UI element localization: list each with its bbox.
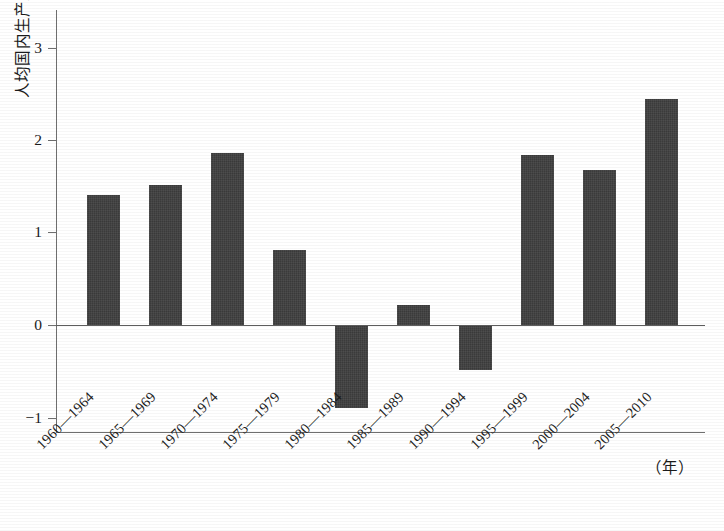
bar-1995-1999[interactable] (521, 155, 554, 325)
zero-baseline (56, 325, 705, 326)
bar-1970-1974[interactable] (211, 153, 244, 325)
y-tick-mark-1 (48, 232, 57, 233)
x-axis-unit-label: （年） (646, 455, 694, 477)
bar-1960-1964[interactable] (87, 195, 120, 325)
bar-1975-1979[interactable] (273, 250, 306, 325)
y-tick-mark-2 (48, 140, 57, 141)
bar-1985-1989[interactable] (397, 305, 430, 325)
bar-2005-2010[interactable] (645, 99, 678, 325)
bar-2000-2004[interactable] (583, 170, 616, 325)
y-tick-label-2: 2 (12, 131, 42, 149)
y-tick-mark-3 (48, 48, 57, 49)
y-tick-label-neg1: −1 (12, 409, 42, 427)
y-tick-label-3: 3 (12, 39, 42, 57)
y-tick-label-0: 0 (12, 316, 42, 334)
y-tick-label-1: 1 (12, 223, 42, 241)
chart-figure: 人均国内生产总值真实增长率中位数（%） 3 2 1 0 −1 1960—1964… (0, 0, 724, 531)
bar-1965-1969[interactable] (149, 185, 182, 325)
